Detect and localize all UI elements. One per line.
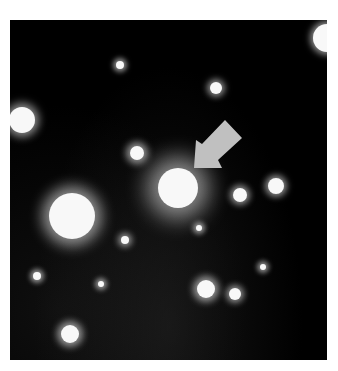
star <box>158 168 198 208</box>
star <box>260 264 266 270</box>
star-field-image <box>10 20 327 360</box>
star <box>121 236 129 244</box>
star <box>49 193 95 239</box>
star <box>33 272 41 280</box>
star <box>61 325 79 343</box>
star <box>116 61 124 69</box>
star <box>268 178 284 194</box>
star <box>210 82 222 94</box>
star <box>10 107 35 133</box>
star <box>196 225 202 231</box>
star <box>197 280 215 298</box>
star <box>233 188 247 202</box>
star <box>229 288 241 300</box>
star <box>130 146 144 160</box>
star <box>98 281 104 287</box>
star <box>313 24 327 52</box>
